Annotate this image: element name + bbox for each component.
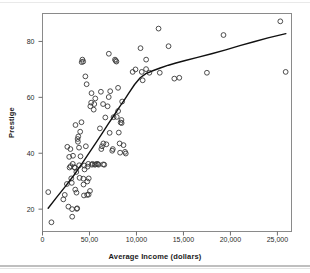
- x-axis-ticks: [43, 232, 278, 236]
- bottom-divider: [0, 265, 310, 267]
- bottom-divider-light: [0, 268, 310, 269]
- scatter-plot-figure: 050,0010,00015,00020,00025,000 20406080 …: [0, 0, 310, 273]
- x-tick-label: 50,00: [69, 236, 109, 243]
- x-axis-title: Average Income (dollars): [0, 252, 310, 261]
- plot-frame: [43, 14, 292, 232]
- y-axis-ticks: [39, 41, 43, 209]
- x-tick-label: 10,000: [116, 236, 156, 243]
- plot-canvas: [0, 0, 310, 273]
- y-tick-label: 80: [9, 37, 35, 46]
- y-axis-title: Prestige: [7, 88, 16, 158]
- x-tick-label: 20,000: [210, 236, 250, 243]
- y-tick-label: 20: [9, 205, 35, 214]
- x-tick-label: 15,000: [163, 236, 203, 243]
- x-tick-label: 25,000: [257, 236, 297, 243]
- x-tick-label: 0: [23, 236, 63, 243]
